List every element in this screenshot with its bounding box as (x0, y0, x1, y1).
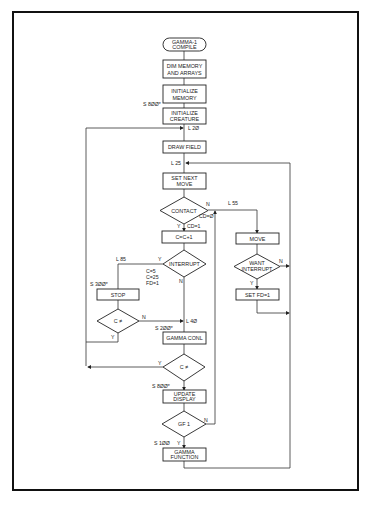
svg-text:STOP: STOP (111, 292, 126, 298)
svg-text:L 2Ø: L 2Ø (188, 125, 199, 131)
node-c-increment: C=C+1 (162, 231, 206, 243)
svg-text:DRAW FIELD: DRAW FIELD (168, 144, 201, 150)
svg-text:N: N (179, 278, 183, 284)
node-initialize-memory: INITIALIZE MEMORY (163, 85, 206, 103)
svg-text:L 25: L 25 (171, 160, 181, 166)
svg-text:INITIALIZE: INITIALIZE (171, 88, 198, 94)
svg-text:DIM MEMORY: DIM MEMORY (167, 63, 203, 69)
svg-text:MOVE: MOVE (177, 181, 193, 187)
svg-text:Y: Y (177, 440, 181, 446)
node-gamma-conl: GAMMA CONL (163, 332, 206, 344)
node-c-ne-left-decision: C ≠ (97, 309, 139, 333)
svg-text:CREATURE: CREATURE (170, 116, 200, 122)
svg-text:MEMORY: MEMORY (172, 95, 197, 101)
svg-text:S 8ØØ*: S 8ØØ* (152, 383, 170, 389)
svg-text:Y: Y (158, 256, 162, 262)
svg-text:FD=1: FD=1 (146, 280, 159, 286)
node-contact-decision: CONTACT (160, 197, 208, 224)
node-stop: STOP (97, 289, 139, 300)
svg-text:Y: Y (111, 334, 115, 340)
svg-text:N: N (206, 201, 210, 207)
svg-text:Y: Y (158, 360, 162, 366)
node-dim-memory: DIM MEMORY AND ARRAYS (163, 60, 206, 78)
svg-text:MOVE: MOVE (250, 236, 266, 242)
node-gamma-function: GAMMA FUNCTION (163, 448, 206, 461)
svg-text:INTERRUPT: INTERRUPT (169, 261, 201, 267)
svg-text:AND ARRAYS: AND ARRAYS (167, 70, 202, 76)
svg-text:N: N (204, 417, 208, 423)
node-draw-field: DRAW FIELD (163, 141, 206, 153)
svg-text:C=C+1: C=C+1 (175, 234, 192, 240)
node-c-ne-main-decision: C ≠ (163, 354, 205, 381)
node-start: GAMMA-1 COMPILE (163, 38, 206, 51)
svg-text:C ≠: C ≠ (114, 318, 122, 324)
svg-text:COMPILE: COMPILE (172, 44, 197, 50)
svg-text:L 85: L 85 (116, 256, 126, 262)
node-update-display: UPDATE DISPLAY (163, 390, 206, 403)
node-interrupt-decision: INTERRUPT (163, 250, 206, 277)
node-move: MOVE (236, 233, 279, 244)
svg-text:S 2ØØ*: S 2ØØ* (155, 325, 173, 331)
flowchart: GAMMA-1 COMPILE DIM MEMORY AND ARRAYS IN… (0, 0, 373, 505)
svg-text:L 55: L 55 (228, 200, 238, 206)
node-initialize-creature: INITIALIZE CREATURE (163, 108, 206, 124)
svg-text:DISPLAY: DISPLAY (173, 396, 196, 402)
svg-text:CONTACT: CONTACT (171, 208, 197, 214)
svg-text:FUNCTION: FUNCTION (171, 454, 199, 460)
svg-text:S 8ØØ*: S 8ØØ* (143, 101, 161, 107)
svg-text:SET FD=1: SET FD=1 (245, 292, 270, 298)
svg-text:L 4Ø: L 4Ø (186, 318, 197, 324)
node-set-next-move: SET NEXT MOVE (163, 173, 206, 189)
svg-text:CD=Ø: CD=Ø (199, 213, 214, 219)
svg-text:C ≠: C ≠ (180, 364, 188, 370)
svg-text:N: N (279, 258, 283, 264)
node-want-interrupt-decision: WANT INTERRUPT (234, 254, 280, 279)
svg-text:Y: Y (177, 223, 181, 229)
node-gf1-decision: GF 1 (162, 411, 206, 437)
svg-text:GAMMA CONL: GAMMA CONL (166, 335, 203, 341)
svg-text:S 3ØØ*: S 3ØØ* (90, 281, 108, 287)
svg-text:N: N (142, 314, 146, 320)
svg-text:CD=1: CD=1 (187, 223, 201, 229)
svg-text:S 1ØØ: S 1ØØ (154, 440, 170, 446)
svg-text:INTERRUPT: INTERRUPT (242, 266, 274, 272)
node-set-fd: SET FD=1 (236, 289, 279, 300)
svg-text:Y: Y (250, 280, 254, 286)
svg-text:GF 1: GF 1 (178, 421, 190, 427)
